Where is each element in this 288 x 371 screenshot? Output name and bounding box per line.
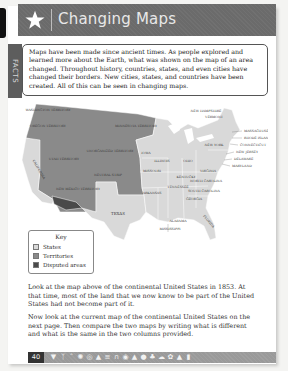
plant-icon: ᛉ (59, 353, 66, 362)
territories-swatch (33, 253, 39, 259)
label-maryland: MARYLAND (232, 164, 252, 168)
key-item-disputed: Disputed areas (33, 260, 89, 269)
facts-side-tab: FACTS (8, 44, 22, 98)
star-icon (25, 10, 45, 30)
body-paragraph-2: Now look at the current map of the conti… (28, 313, 260, 339)
label-virginia: VIRGINIA (199, 169, 217, 173)
label-north-carolina: NORTH CAROLINA (190, 179, 223, 183)
map-key: Key States Territories Disputed areas (28, 230, 94, 274)
key-label: Disputed areas (43, 262, 86, 268)
page-header: Changing Maps (18, 4, 276, 36)
mountain-icon: ▲ (95, 353, 102, 362)
footer-icon-strip: ▼ ᛉ ˄ ✺ ◎ ▲ ≡ ∩ ◉ ▲ ● ♣ ☁ ✿ ▲ ▮ (50, 353, 192, 362)
wind-icon: ≡ (104, 353, 111, 362)
flower-icon: ✿ (167, 353, 174, 362)
label-illinois: ILLINOIS (154, 159, 170, 163)
thermometer-icon: ▮ (185, 353, 192, 362)
facts-label: FACTS (8, 44, 22, 98)
camel-icon: ∩ (113, 353, 120, 362)
page-number: 40 (28, 352, 44, 363)
us-map-1853: WASHINGTON TERRITORY OREGON TERRITORY MI… (18, 100, 268, 250)
intro-paragraph: Maps have been made since ancient times.… (29, 48, 261, 90)
label-arkansas: ARKANSAS (142, 191, 162, 195)
globe-icon: ◎ (86, 353, 93, 362)
label-missouri: MISSOURI (143, 169, 162, 173)
label-alabama: ALABAMA (169, 219, 188, 223)
label-oregon: OREGON TERRITORY (30, 124, 67, 128)
label-tennessee: TENNESSEE (167, 185, 189, 189)
intro-text-box: Maps have been made since ancient times.… (22, 44, 268, 96)
label-texas: TEXAS (111, 211, 125, 216)
label-connecticut: CONNECTICUT (240, 143, 267, 147)
key-label: States (43, 244, 61, 250)
label-georgia: GEORGIA (186, 197, 203, 201)
label-new-york: NEW YORK (205, 143, 225, 147)
disputed-swatch (33, 262, 39, 268)
label-new-jersey: NEW JERSEY (236, 150, 259, 154)
key-label: Territories (43, 253, 73, 259)
sun-icon: ✺ (77, 353, 84, 362)
label-south-carolina: SOUTH CAROLINA (188, 189, 220, 193)
header-divider (51, 9, 52, 31)
label-utah: UTAH TERRITORY (49, 157, 80, 161)
label-delaware: DELAWARE (234, 157, 254, 161)
earth-icon: ◉ (122, 353, 129, 362)
key-title: Key (33, 233, 89, 240)
label-mississippi: MISSISSIPPI (159, 227, 181, 231)
states-swatch (33, 244, 39, 250)
leaf-icon: ● (140, 353, 147, 362)
label-washington: WASHINGTON TERRITORY (25, 108, 71, 112)
tornado-icon: ▼ (50, 353, 57, 362)
label-ohio: OHIO (183, 159, 193, 163)
cloud-icon: ☁ (158, 353, 165, 362)
key-item-states: States (33, 242, 89, 251)
label-massachusetts: MASSACHUSETTS (244, 129, 268, 133)
label-minnesota: MINNESOTA TERRITORY (115, 124, 158, 128)
label-neutral-strip: NEUTRAL STRIP (94, 173, 123, 177)
binder-tab (0, 8, 6, 38)
tree-icon: ♣ (149, 353, 156, 362)
label-new-mexico: NEW MEXICO TERRITORY (56, 187, 101, 191)
label-rhode-island: RHODE ISLAND (244, 136, 268, 140)
label-new-hampshire: NEW HAMPSHIRE (191, 109, 223, 113)
label-vermont: VERMONT (204, 115, 224, 119)
label-iowa: IOWA (141, 151, 151, 155)
bird-icon: ˄ (68, 353, 75, 362)
key-item-territories: Territories (33, 251, 89, 260)
volcano-icon: ▲ (131, 353, 138, 362)
page-footer: 40 ▼ ᛉ ˄ ✺ ◎ ▲ ≡ ∩ ◉ ▲ ● ♣ ☁ ✿ ▲ ▮ (28, 352, 276, 363)
label-unorganized: UNORGANIZED TERRITORY (86, 149, 134, 153)
body-paragraph-1: Look at the map above of the continental… (28, 283, 260, 309)
page-title: Changing Maps (58, 10, 176, 28)
mountain-snow-icon: ▲ (176, 353, 183, 362)
